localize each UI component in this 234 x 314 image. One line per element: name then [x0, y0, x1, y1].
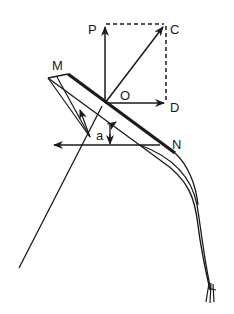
resultant-vector-c	[105, 27, 163, 103]
label-c: C	[170, 22, 179, 37]
kite-surface-mn	[48, 74, 175, 160]
label-p: P	[88, 22, 97, 37]
label-n: N	[172, 137, 181, 152]
label-o: O	[120, 88, 130, 103]
label-m: M	[52, 58, 63, 73]
kite-string-projection	[19, 106, 102, 268]
label-d: D	[170, 100, 179, 115]
label-angle-a: a	[96, 128, 104, 143]
kite-tail	[140, 145, 216, 303]
kite-force-diagram: P C O D M N a	[0, 0, 234, 314]
